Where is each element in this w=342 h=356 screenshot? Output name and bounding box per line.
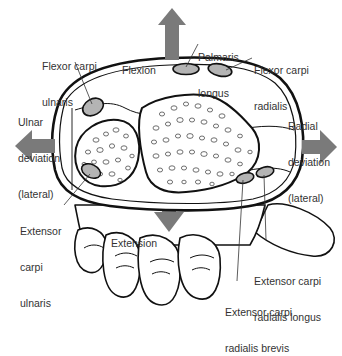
label-palmaris-longus: Palmaris longus xyxy=(198,27,239,111)
flexion-arrow xyxy=(158,8,186,60)
label-radial-deviation: Radial deviation (lateral) xyxy=(288,96,330,216)
label-extensor-carpi-ulnaris: Extensor carpi ulnaris xyxy=(20,201,61,321)
label-extension: Extension xyxy=(111,213,157,261)
finger-little xyxy=(75,228,107,273)
label-extensor-carpi-radialis-brevis: Extensor carpi radialis brevis xyxy=(225,282,292,356)
label-ulnar-deviation: Ulnar deviation (lateral) xyxy=(18,92,60,212)
finger-index xyxy=(178,235,220,299)
tendon-palmaris-longus xyxy=(173,64,199,75)
label-flexion: Flexion xyxy=(122,40,156,88)
